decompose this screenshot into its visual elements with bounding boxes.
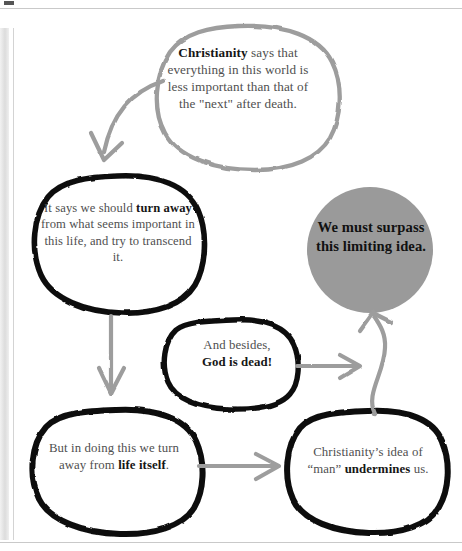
life-itself-post: . [166,458,169,472]
turn-away-pre: It says we should [44,201,136,215]
life-itself-bubble-text: But in doing this we turn away from life… [36,440,192,473]
life-itself-bold: life itself [118,458,166,472]
god-is-dead-pre: And besides, [203,338,270,352]
arrow-undermines-to-surpass [372,316,385,414]
undermines-bubble-text: Christianity’s idea of “man” undermines … [304,444,432,477]
christianity-bold-lead: Christianity [178,45,247,60]
turn-away-post: from what seems important in this life, … [41,217,195,264]
turn-away-bold: turn away [136,201,192,215]
christianity-bubble-text: Christianity says that everything in thi… [162,44,314,113]
page-canvas: Christianity says that everything in thi… [0,0,462,551]
surpass-circle-text: We must surpass this limiting idea. [310,218,432,255]
god-is-dead-bold: God is dead! [202,355,272,369]
turn-away-bubble-text: It says we should turn away from what se… [38,200,198,265]
arrow-christianity-to-turn-away [104,81,163,152]
undermines-bold: undermines [345,462,411,476]
undermines-post: us. [410,462,428,476]
god-is-dead-bubble-text: And besides, God is dead! [176,337,298,370]
